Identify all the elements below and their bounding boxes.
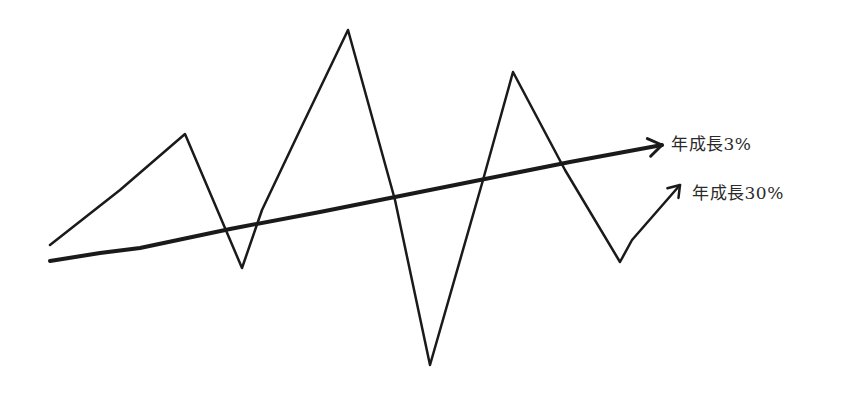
steady-growth-label: 年成長3% <box>671 130 751 155</box>
volatile-growth-label: 年成長30% <box>692 179 784 204</box>
volatile-growth-line <box>50 30 680 365</box>
steady-growth-line <box>50 139 662 261</box>
